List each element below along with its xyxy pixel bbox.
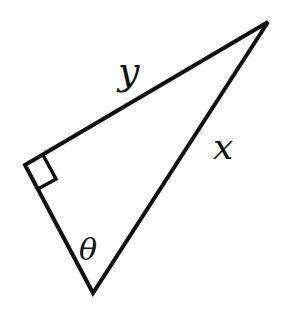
label-y: y	[116, 49, 140, 93]
label-x: x	[213, 126, 233, 167]
label-theta: θ	[79, 232, 97, 267]
triangle-diagram: y x θ	[0, 0, 284, 318]
right-angle-marker	[38, 155, 56, 189]
